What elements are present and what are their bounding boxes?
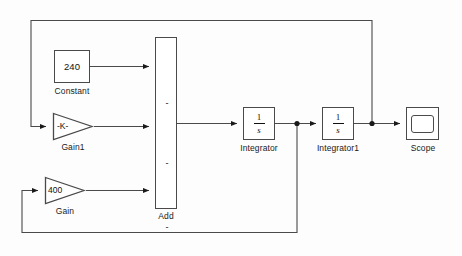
add-block[interactable]: - - -	[155, 37, 177, 209]
integrator1-transfer-function: 1 s	[333, 113, 344, 135]
signal-junction-integrator1	[369, 121, 374, 126]
integrator1-block[interactable]: 1 s	[322, 107, 354, 140]
gain-block[interactable]: 400	[44, 176, 86, 205]
integrator1-denominator: s	[336, 126, 340, 135]
constant-value: 240	[64, 61, 80, 72]
gain-block-label: Gain	[25, 206, 105, 216]
add-block-label: Add	[131, 211, 201, 221]
integrator1-block-label: Integrator1	[296, 143, 380, 153]
gain-value: 400	[48, 185, 62, 195]
scope-screen-icon	[411, 115, 434, 133]
fraction-bar	[333, 123, 344, 124]
add-sign-3: -	[156, 223, 178, 232]
integrator1-numerator: 1	[336, 113, 341, 122]
integrator-numerator: 1	[257, 113, 262, 122]
block-diagram-canvas: 240 Constant -K- Gain1 400 Gain - - - Ad…	[0, 0, 462, 256]
add-sign-2: -	[156, 159, 178, 168]
scope-block[interactable]	[406, 107, 439, 140]
gain1-block-label: Gain1	[33, 142, 113, 152]
gain1-block[interactable]: -K-	[52, 112, 94, 141]
fraction-bar	[254, 123, 265, 124]
integrator-block[interactable]: 1 s	[243, 107, 275, 140]
integrator-block-label: Integrator	[219, 143, 299, 153]
constant-block[interactable]: 240	[54, 50, 90, 83]
add-sign-1: -	[156, 99, 178, 108]
integrator-denominator: s	[257, 126, 261, 135]
scope-block-label: Scope	[390, 143, 456, 153]
gain1-value: -K-	[57, 121, 68, 131]
constant-block-label: Constant	[37, 86, 107, 96]
signal-junction-integrator	[294, 121, 299, 126]
integrator-transfer-function: 1 s	[254, 113, 265, 135]
